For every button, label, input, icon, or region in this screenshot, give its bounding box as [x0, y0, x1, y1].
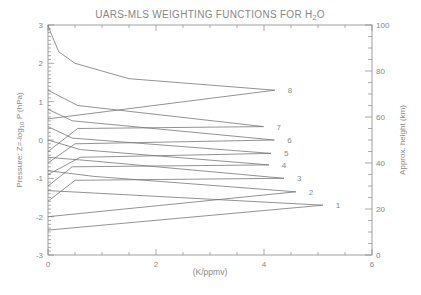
- curve-label-4: 4: [282, 161, 287, 170]
- x-tick-label: 6: [370, 260, 375, 269]
- chart-title: UARS-MLS WEIGHTING FUNCTIONS FOR H2O: [95, 9, 325, 21]
- curve-label-8: 8: [288, 86, 293, 95]
- curve-label-1: 1: [336, 201, 341, 210]
- weighting-functions-chart: UARS-MLS WEIGHTING FUNCTIONS FOR H2O 024…: [0, 0, 421, 295]
- y-tick-label: 1: [39, 98, 44, 107]
- y2-tick-label: 80: [376, 67, 385, 76]
- y-tick-label: -2: [36, 213, 44, 222]
- curve-6: [48, 109, 274, 163]
- curve-label-5: 5: [284, 149, 289, 158]
- curve-2: [48, 171, 296, 217]
- y2-tick-label: 20: [376, 205, 385, 214]
- y-tick-label: -3: [36, 251, 44, 260]
- weighting-curves: 12345678: [48, 25, 341, 230]
- y2-axis-ticks: 020406080100: [365, 21, 390, 260]
- y2-tick-label: 100: [376, 21, 390, 30]
- x-axis-ticks: 0246: [46, 25, 375, 269]
- y-tick-label: -1: [36, 174, 44, 183]
- curve-1: [48, 191, 323, 231]
- x-tick-label: 2: [154, 260, 159, 269]
- y-axis-label-left: Pressure: Z=-log10 P (hPa): [15, 92, 25, 188]
- curve-label-3: 3: [297, 174, 302, 183]
- y-axis-label-right: Approx. height (km): [398, 105, 407, 175]
- curve-label-2: 2: [309, 188, 314, 197]
- y-tick-label: 2: [39, 59, 44, 68]
- x-axis-label: (K/ppmv): [193, 267, 228, 277]
- y2-tick-label: 60: [376, 113, 385, 122]
- curve-label-7: 7: [276, 123, 281, 132]
- y-axis-ticks: -3-2-10123: [36, 21, 54, 260]
- curve-8: [48, 25, 275, 119]
- curve-3: [48, 157, 284, 201]
- y2-tick-label: 0: [376, 251, 381, 260]
- x-tick-label: 0: [46, 260, 51, 269]
- y-tick-label: 3: [39, 21, 44, 30]
- y-tick-label: 0: [39, 136, 44, 145]
- y2-tick-label: 40: [376, 159, 385, 168]
- curve-label-6: 6: [287, 136, 292, 145]
- x-tick-label: 4: [262, 260, 267, 269]
